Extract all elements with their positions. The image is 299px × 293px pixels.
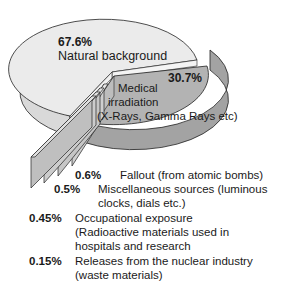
label-occupational-line3: hospitals and research (75, 240, 191, 253)
label-misc-line2: clocks, dials etc.) (98, 197, 186, 210)
label-misc-line1: Miscellaneous sources (luminous (98, 183, 267, 196)
label-fallout-pct: 0.6% (75, 169, 101, 182)
label-medical-pct: 30.7% (168, 72, 202, 85)
label-occupational-pct: 0.45% (29, 212, 62, 225)
label-nuclear-pct: 0.15% (29, 255, 62, 268)
label-medical-line3: (X-Rays, Gamma Rays etc) (97, 110, 238, 123)
label-occupational-line1: Occupational exposure (75, 212, 193, 225)
label-misc-pct: 0.5% (54, 183, 80, 196)
label-nuclear-line1: Releases from the nuclear industry (75, 255, 253, 268)
label-natural-pct: 67.6% (58, 36, 92, 49)
label-fallout-desc: Fallout (from atomic bombs) (120, 169, 263, 182)
label-medical-line2: irradiation (108, 96, 159, 109)
label-medical-line1: Medical (118, 82, 158, 95)
label-occupational-line2: (Radioactive materials used in (75, 226, 229, 239)
label-natural-desc: Natural background (58, 50, 167, 63)
label-nuclear-line2: (waste materials) (75, 269, 163, 282)
